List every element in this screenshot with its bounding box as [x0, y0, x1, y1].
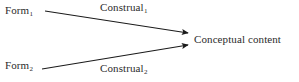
node-label-form-2-subscript: 2: [30, 65, 34, 73]
edge-label-construal-2-subscript: 2: [144, 68, 148, 76]
edge-label-construal-2: Construal2: [100, 63, 147, 74]
edge-label-construal-2-text: Construal: [100, 62, 144, 74]
node-label-form-2-text: Form: [5, 59, 29, 71]
node-label-form-2: Form2: [5, 60, 33, 71]
arrow-form1-to-conceptual-content: [45, 11, 188, 33]
node-label-form-1-text: Form: [5, 4, 29, 16]
construal-diagram: Form1 Form2 Construal1 Construal2 Concep…: [0, 0, 299, 82]
node-label-conceptual-content: Conceptual content: [194, 34, 281, 45]
edge-label-construal-1-subscript: 1: [144, 7, 148, 15]
edge-label-construal-1-text: Construal: [100, 1, 144, 13]
node-label-form-1-subscript: 1: [30, 10, 34, 18]
edge-label-construal-1: Construal1: [100, 2, 147, 13]
node-label-conceptual-content-text: Conceptual content: [194, 33, 281, 45]
node-label-form-1: Form1: [5, 5, 33, 16]
